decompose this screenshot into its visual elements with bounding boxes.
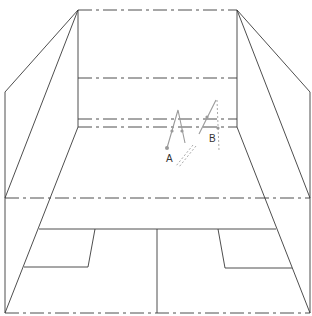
figure-a-dashed-trace-2 xyxy=(179,146,196,167)
right-panel-top-edge xyxy=(237,10,310,92)
figure-a-point-start xyxy=(165,146,169,150)
left-step xyxy=(24,229,95,267)
right-panel-diagonal xyxy=(237,10,310,198)
diagram-canvas: A B xyxy=(0,0,312,316)
figure-b: B xyxy=(199,100,220,150)
left-panel xyxy=(5,10,78,313)
figure-a-point-end xyxy=(180,129,183,132)
figure-a-dashed-trace xyxy=(176,145,193,166)
figure-b-point-end xyxy=(216,126,219,129)
left-panel-diagonal xyxy=(5,10,78,198)
left-panel-top-edge xyxy=(5,10,78,92)
figure-a-zigzag xyxy=(167,110,185,148)
figure-b-dashed-vertical xyxy=(217,100,219,150)
right-floor-edge xyxy=(237,127,310,313)
label-b: B xyxy=(209,133,216,144)
left-floor-edge xyxy=(5,127,78,313)
back-wall xyxy=(78,10,237,127)
room-diagram: A B xyxy=(0,0,312,316)
figure-a-point-mid xyxy=(170,129,173,132)
right-step xyxy=(218,229,292,268)
floor-structure xyxy=(5,198,310,313)
figure-b-point-mid xyxy=(205,115,208,118)
label-a: A xyxy=(166,153,173,164)
